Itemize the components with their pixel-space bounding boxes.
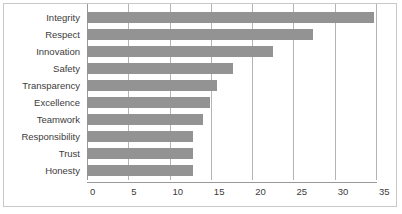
bar-safety[interactable] [87,63,233,74]
bar-teamwork[interactable] [87,114,203,125]
category-label-excellence: Excellence [0,97,80,108]
x-tick-label-15: 15 [214,186,225,197]
bar-row [87,165,376,176]
category-label-honesty: Honesty [0,165,80,176]
x-tick-label-5: 5 [131,186,136,197]
gridline-35 [376,4,377,180]
bar-excellence[interactable] [87,97,210,108]
bar-transparency[interactable] [87,80,217,91]
category-label-teamwork: Teamwork [0,114,80,125]
x-tick-label-20: 20 [255,186,266,197]
bar-responsibility[interactable] [87,131,193,142]
bar-honesty[interactable] [87,165,193,176]
bar-innovation[interactable] [87,46,273,57]
x-tick-label-30: 30 [338,186,349,197]
plot-area [87,12,376,182]
bar-row [87,63,376,74]
bar-respect[interactable] [87,29,313,40]
bar-integrity[interactable] [87,12,374,23]
bar-row [87,46,376,57]
bar-row [87,12,376,23]
x-tick-label-35: 35 [379,186,390,197]
bar-trust[interactable] [87,148,193,159]
bar-row [87,29,376,40]
x-tick-label-10: 10 [173,186,184,197]
category-label-innovation: Innovation [0,46,80,57]
x-axis-line [87,182,377,183]
category-label-safety: Safety [0,63,80,74]
x-tick-label-25: 25 [296,186,307,197]
chart-frame: IntegrityRespectInnovationSafetyTranspar… [3,3,397,207]
bar-row [87,148,376,159]
category-label-integrity: Integrity [0,12,80,23]
category-label-respect: Respect [0,29,80,40]
category-label-trust: Trust [0,148,80,159]
x-tick-label-0: 0 [90,186,95,197]
bar-row [87,114,376,125]
bar-row [87,97,376,108]
category-label-responsibility: Responsibility [0,131,80,142]
category-label-transparency: Transparency [0,80,80,91]
bar-row [87,131,376,142]
bar-row [87,80,376,91]
